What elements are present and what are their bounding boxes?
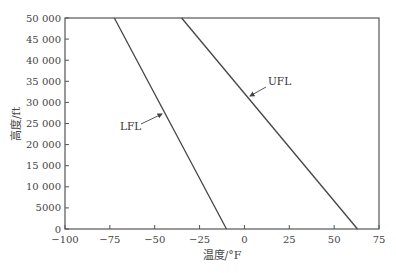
x-tick-label: 0	[241, 234, 247, 245]
annotation-lfl: LFL	[120, 120, 141, 132]
y-tick-label: 10 000	[26, 181, 61, 192]
x-tick-label: 50	[328, 234, 341, 245]
y-tick-label: 45 000	[26, 34, 61, 45]
y-tick-label: 35 000	[26, 76, 61, 87]
x-axis-title: 温度/°F	[203, 248, 242, 262]
x-tick-label: −100	[51, 234, 78, 245]
y-tick-label: 50 000	[26, 13, 61, 24]
x-axis: −100−75−50−250255075	[51, 225, 385, 245]
annotations: LFLUFL	[120, 75, 291, 132]
y-tick-label: 40 000	[26, 55, 61, 66]
y-tick-label: 0	[55, 224, 61, 235]
y-axis: 0500010 00015 00020 00025 00030 00035 00…	[26, 13, 69, 235]
y-tick-label: 20 000	[26, 139, 61, 150]
x-tick-label: 25	[283, 234, 296, 245]
flammability-limits-chart: −100−75−50−250255075 0500010 00015 00020…	[0, 0, 396, 273]
annotation-arrow-icon	[141, 114, 162, 124]
y-tick-label: 15 000	[26, 160, 61, 171]
series-ufl-line	[182, 18, 358, 229]
x-tick-label: 75	[373, 234, 386, 245]
x-tick-label: −50	[144, 234, 165, 245]
y-axis-title: 高度/ft	[9, 106, 23, 141]
annotation-arrow-icon	[250, 87, 266, 96]
y-tick-label: 30 000	[26, 97, 61, 108]
annotation-ufl: UFL	[268, 75, 291, 87]
y-tick-label: 5000	[36, 202, 61, 213]
x-tick-label: −75	[99, 234, 120, 245]
y-tick-label: 25 000	[26, 118, 61, 129]
x-tick-label: −25	[189, 234, 210, 245]
series-lines	[114, 18, 357, 229]
